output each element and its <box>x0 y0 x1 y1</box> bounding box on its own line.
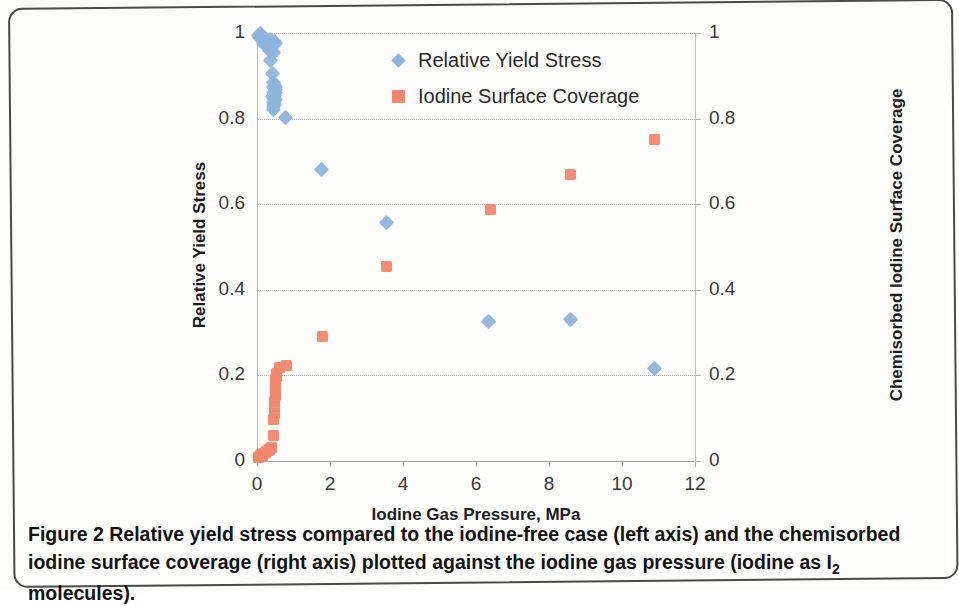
x-axis-tick <box>476 461 477 467</box>
data-point-square <box>281 360 292 371</box>
right-axis-tick <box>695 290 701 291</box>
x-axis-tick-label: 12 <box>675 473 715 495</box>
right-axis-line <box>695 33 696 461</box>
data-point-square <box>268 430 279 441</box>
gridline-y <box>257 204 695 205</box>
data-point-square <box>317 331 328 342</box>
legend-square-marker-icon <box>392 90 405 103</box>
data-point-diamond <box>278 110 294 126</box>
right-axis-tick-label: 0.6 <box>709 192 763 214</box>
left-axis-tick-label: 0.2 <box>191 363 245 385</box>
right-axis-tick-label: 0.2 <box>709 363 763 385</box>
x-axis-tick <box>403 461 404 467</box>
data-point-diamond <box>379 214 395 230</box>
right-axis-tick-label: 1 <box>709 21 763 43</box>
x-axis-tick <box>330 461 331 467</box>
legend-diamond-marker-icon <box>391 53 406 68</box>
chart-legend: Relative Yield Stress Iodine Surface Cov… <box>392 42 692 114</box>
x-axis-tick-label: 8 <box>529 473 569 495</box>
gridline-y <box>257 375 695 376</box>
x-axis-tick <box>549 461 550 467</box>
gridline-y <box>257 119 695 120</box>
left-axis-tick-label: 0.6 <box>191 192 245 214</box>
figure-caption-end: molecules). <box>28 582 135 604</box>
figure-chart-area: Relative Yield Stress Chemisorbed Iodine… <box>0 0 947 515</box>
left-axis-tick-label: 1 <box>191 21 245 43</box>
right-axis-tick <box>695 119 701 120</box>
right-axis-title: Chemisorbed Iodine Surface Coverage <box>887 75 907 415</box>
right-axis-tick <box>695 33 701 34</box>
data-point-diamond <box>481 313 497 329</box>
figure-caption-number: Figure 2 <box>28 523 104 545</box>
x-axis-tick-label: 4 <box>383 473 423 495</box>
legend-label-relative-yield-stress: Relative Yield Stress <box>418 49 601 72</box>
data-point-square <box>485 204 496 215</box>
left-axis-tick-label: 0.4 <box>191 278 245 300</box>
left-axis-tick-label: 0 <box>191 449 245 471</box>
x-axis-tick-label: 0 <box>237 473 277 495</box>
left-axis-title: Relative Yield Stress <box>190 150 210 340</box>
figure-caption: Figure 2 Relative yield stress compared … <box>28 521 923 607</box>
x-axis-tick <box>622 461 623 467</box>
x-axis-tick-label: 6 <box>456 473 496 495</box>
data-point-square <box>565 169 576 180</box>
right-axis-tick-label: 0.8 <box>709 107 763 129</box>
right-axis-tick <box>695 375 701 376</box>
right-axis-tick-label: 0 <box>709 449 763 471</box>
x-axis-tick-label: 10 <box>602 473 642 495</box>
figure-caption-body: Relative yield stress compared to the io… <box>28 523 900 573</box>
right-axis-tick-label: 0.4 <box>709 278 763 300</box>
x-axis-tick <box>695 461 696 467</box>
data-point-square <box>649 134 660 145</box>
figure-caption-subscript: 2 <box>832 561 840 577</box>
gridline-y <box>257 33 695 34</box>
x-axis-tick-label: 2 <box>310 473 350 495</box>
data-point-diamond <box>563 312 579 328</box>
gridline-y <box>257 290 695 291</box>
legend-label-iodine-surface-coverage: Iodine Surface Coverage <box>418 85 639 108</box>
data-point-square <box>381 261 392 272</box>
legend-item-iodine-surface-coverage: Iodine Surface Coverage <box>392 78 692 114</box>
data-point-diamond <box>314 162 330 178</box>
right-axis-tick <box>695 204 701 205</box>
data-point-square <box>266 442 277 453</box>
data-point-diamond <box>647 361 663 377</box>
legend-item-relative-yield-stress: Relative Yield Stress <box>392 42 692 78</box>
left-axis-tick-label: 0.8 <box>191 107 245 129</box>
left-axis-line <box>257 33 258 461</box>
